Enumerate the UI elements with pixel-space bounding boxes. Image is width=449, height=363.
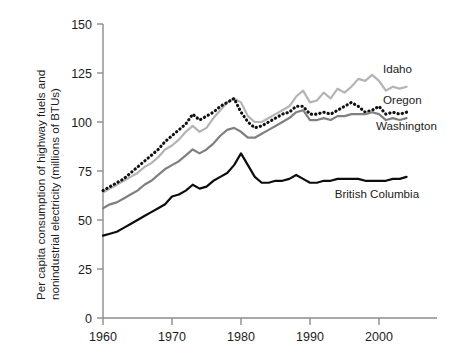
y-axis-title-line-1: Per capita consumption of highway fuels … [34,70,47,300]
x-tick-label: 2000 [365,330,393,344]
x-tick-label: 1960 [89,330,117,344]
x-tick-label: 1980 [227,330,255,344]
y-tick-label: 100 [71,116,92,130]
chart-figure: Per capita consumption of highway fuels … [0,0,449,363]
y-tick-label: 50 [78,214,92,228]
y-tick-label: 75 [78,165,92,179]
data-series-group [103,75,407,236]
y-tick-label: 25 [78,263,92,277]
y-tick-label: 125 [71,67,92,81]
x-axis-ticks: 19601970198019902000 [89,318,393,344]
series-label-british-columbia: British Columbia [335,187,420,200]
line-chart: Per capita consumption of highway fuels … [0,0,449,363]
series-label-oregon: Oregon [383,93,422,106]
series-label-idaho: Idaho [383,62,412,75]
x-tick-label: 1990 [296,330,324,344]
y-tick-label: 150 [71,18,92,32]
x-tick-label: 1970 [158,330,186,344]
y-tick-label: 0 [85,312,92,326]
y-axis-ticks: 0255075100125150 [71,18,103,326]
y-axis-title-line-2: nonindustrial electricity (millions of B… [48,88,61,300]
series-label-washington: Washington [376,119,437,132]
